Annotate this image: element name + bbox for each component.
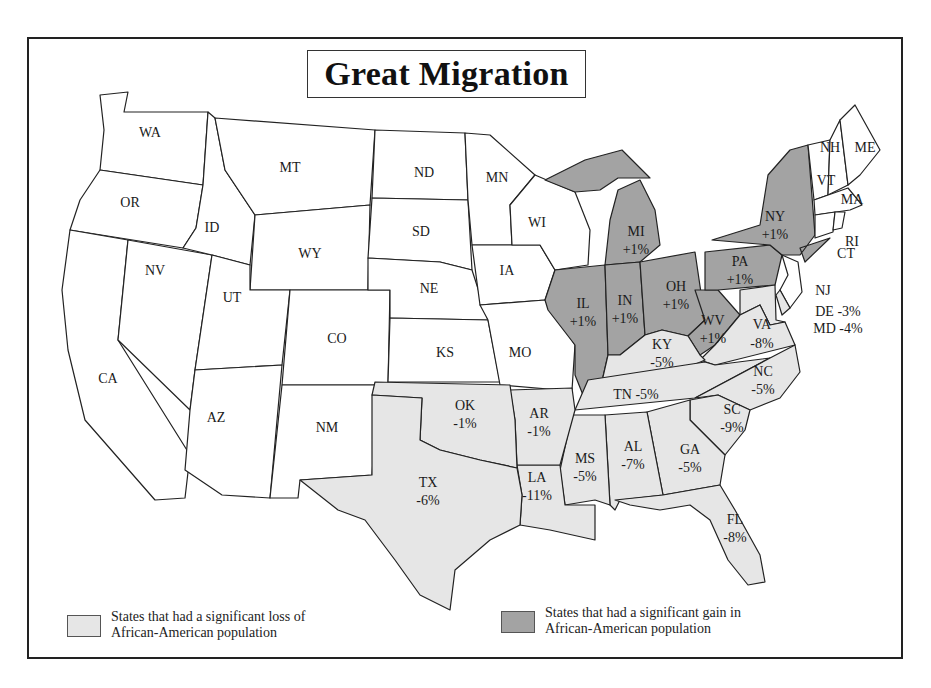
svg-text:NE: NE: [420, 281, 439, 296]
svg-text:-5%: -5%: [650, 355, 674, 370]
legend-gain-text: States that had a significant gain in Af…: [545, 605, 741, 637]
svg-text:NC: NC: [753, 364, 772, 379]
svg-text:+1%: +1%: [623, 242, 650, 257]
us-map: WA OR ID CA NV MT WY UT AZ CO NM ND SD N…: [0, 0, 931, 688]
svg-text:NY: NY: [765, 209, 785, 224]
svg-text:FL: FL: [727, 512, 743, 527]
svg-text:AR: AR: [529, 406, 549, 421]
svg-text:NM: NM: [316, 420, 339, 435]
title-box: Great Migration: [307, 50, 586, 98]
svg-text:MA: MA: [841, 192, 864, 207]
svg-text:ND: ND: [414, 165, 434, 180]
svg-text:WA: WA: [139, 125, 162, 140]
svg-text:+1%: +1%: [663, 297, 690, 312]
svg-text:-5%: -5%: [678, 460, 702, 475]
svg-text:-7%: -7%: [621, 457, 645, 472]
svg-text:NH: NH: [820, 140, 840, 155]
svg-text:+1%: +1%: [762, 227, 789, 242]
svg-text:ID: ID: [205, 220, 220, 235]
svg-text:DE -3%: DE -3%: [815, 304, 861, 319]
svg-text:GA: GA: [680, 442, 701, 457]
svg-text:IA: IA: [500, 263, 516, 278]
legend-loss-line1: States that had a significant loss of: [111, 609, 305, 625]
svg-text:ME: ME: [855, 140, 876, 155]
svg-text:MS: MS: [575, 451, 595, 466]
svg-text:CA: CA: [98, 371, 118, 386]
svg-text:KS: KS: [436, 345, 454, 360]
svg-text:PA: PA: [732, 254, 750, 269]
svg-text:MD -4%: MD -4%: [813, 321, 863, 336]
svg-text:TN -5%: TN -5%: [613, 387, 659, 402]
svg-text:VA: VA: [753, 317, 772, 332]
svg-text:-8%: -8%: [750, 336, 774, 351]
svg-text:MI: MI: [627, 224, 644, 239]
svg-text:OR: OR: [120, 195, 140, 210]
svg-text:UT: UT: [223, 290, 242, 305]
svg-text:VT: VT: [817, 173, 836, 188]
svg-text:-5%: -5%: [573, 469, 597, 484]
legend-loss-text: States that had a significant loss of Af…: [111, 609, 305, 641]
svg-text:SD: SD: [412, 224, 430, 239]
svg-text:IL: IL: [576, 296, 589, 311]
svg-text:OH: OH: [666, 279, 686, 294]
state-ri: [833, 212, 845, 230]
svg-text:-8%: -8%: [723, 530, 747, 545]
legend-gain-line2: African-American population: [545, 621, 741, 637]
legend-gain: States that had a significant gain in Af…: [501, 605, 741, 637]
svg-text:-1%: -1%: [527, 424, 551, 439]
svg-text:-6%: -6%: [416, 493, 440, 508]
svg-text:LA: LA: [528, 470, 548, 485]
map-title: Great Migration: [324, 55, 569, 93]
svg-text:NJ: NJ: [815, 283, 831, 298]
legend-loss-swatch: [67, 615, 101, 637]
svg-text:+1%: +1%: [700, 331, 727, 346]
svg-text:NV: NV: [145, 263, 165, 278]
svg-text:-1%: -1%: [453, 416, 477, 431]
svg-text:-9%: -9%: [720, 420, 744, 435]
legend-loss: States that had a significant loss of Af…: [67, 609, 305, 641]
svg-text:+1%: +1%: [727, 272, 754, 287]
svg-text:AZ: AZ: [207, 410, 226, 425]
svg-text:MO: MO: [509, 345, 532, 360]
svg-text:-5%: -5%: [751, 382, 775, 397]
svg-text:+1%: +1%: [612, 311, 639, 326]
svg-text:MN: MN: [486, 170, 509, 185]
legend-loss-line2: African-American population: [111, 625, 305, 641]
svg-text:WV: WV: [701, 313, 724, 328]
svg-text:OK: OK: [455, 398, 475, 413]
svg-text:WY: WY: [298, 246, 321, 261]
svg-text:IN: IN: [618, 293, 633, 308]
svg-text:CT: CT: [837, 246, 855, 261]
svg-text:-11%: -11%: [522, 488, 552, 503]
svg-text:TX: TX: [419, 475, 438, 490]
legend-gain-swatch: [501, 611, 535, 633]
svg-text:CO: CO: [327, 331, 346, 346]
state-ct: [815, 212, 835, 238]
svg-text:WI: WI: [528, 215, 546, 230]
svg-text:AL: AL: [624, 439, 643, 454]
svg-text:MT: MT: [280, 160, 301, 175]
svg-text:SC: SC: [723, 402, 740, 417]
svg-text:KY: KY: [652, 337, 672, 352]
state-az: [185, 365, 282, 498]
svg-text:+1%: +1%: [570, 314, 597, 329]
legend-gain-line1: States that had a significant gain in: [545, 605, 741, 621]
state-oh: [640, 252, 705, 336]
